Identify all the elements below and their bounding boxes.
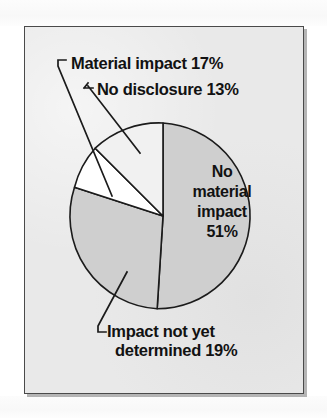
pie-label-no-material-impact-line2: material xyxy=(183,182,261,202)
pie-label-impact-not-yet-line2: determined 19% xyxy=(115,341,267,360)
pie-label-impact-not-yet-determined: Impact not yet determined 19% xyxy=(107,322,267,361)
pie-label-no-disclosure: No disclosure 13% xyxy=(97,80,239,98)
pie-label-no-material-impact: No material impact 51% xyxy=(183,162,261,243)
pie-label-no-material-impact-line1: No xyxy=(183,162,261,182)
pie-label-material-impact: Material impact 17% xyxy=(71,54,223,72)
pie-label-impact-not-yet-line1: Impact not yet xyxy=(107,322,215,340)
pie-label-no-material-impact-line3: impact xyxy=(183,202,261,222)
pie-label-no-material-impact-line4: 51% xyxy=(183,222,261,242)
